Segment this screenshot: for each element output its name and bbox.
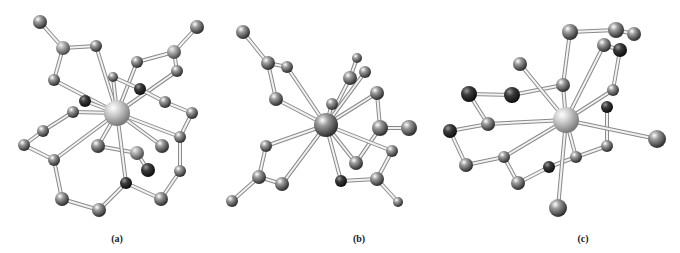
atom (252, 170, 266, 184)
atom (513, 57, 527, 71)
atom (349, 156, 363, 170)
atom (108, 72, 118, 82)
atom (269, 92, 283, 106)
atom (79, 95, 91, 107)
atom (67, 106, 79, 118)
metal-atom (104, 100, 130, 126)
bond-highlight (566, 120, 657, 139)
atom (511, 176, 525, 190)
atom (543, 161, 555, 173)
atom (401, 120, 417, 136)
atom (186, 107, 198, 119)
atom (167, 45, 181, 59)
atom (236, 25, 250, 39)
atom (120, 177, 132, 189)
atom (55, 192, 69, 206)
panel-label-b: (b) (353, 233, 365, 244)
atom (155, 139, 169, 153)
atom (504, 87, 520, 103)
atom (141, 163, 155, 177)
atom (326, 98, 338, 110)
atom (37, 125, 49, 137)
atom (459, 158, 473, 172)
atom (372, 120, 388, 136)
metal-atom (553, 107, 579, 133)
atom (627, 27, 641, 41)
atom (556, 78, 570, 92)
atom (171, 65, 183, 77)
atom (48, 154, 60, 166)
atom (275, 177, 289, 191)
atom (461, 86, 477, 102)
atom (607, 84, 619, 96)
atom (601, 101, 613, 113)
bond-highlight (563, 32, 570, 85)
atom (92, 203, 106, 217)
atom (174, 165, 186, 177)
atom (226, 195, 238, 207)
atom (443, 124, 457, 138)
atom (562, 24, 578, 40)
atom (56, 41, 70, 55)
atom (261, 56, 275, 70)
atom (18, 139, 30, 151)
panel-label-c: (c) (577, 233, 588, 244)
atom (335, 175, 347, 187)
molecular-structures-figure (0, 0, 680, 253)
metal-atom (314, 113, 338, 137)
atom (393, 197, 403, 207)
atom (597, 38, 611, 52)
atom (33, 15, 47, 29)
atom (130, 146, 144, 160)
atom (154, 192, 168, 206)
atom (648, 130, 666, 148)
atom (370, 172, 384, 186)
atom (481, 117, 495, 131)
atom (48, 74, 60, 86)
atom (608, 22, 624, 38)
atom (359, 66, 371, 78)
molecule-panel-b (226, 25, 417, 207)
atom (570, 151, 582, 163)
atom (134, 83, 146, 95)
atom (174, 131, 186, 143)
atom (549, 199, 567, 217)
panel-label-a: (a) (111, 233, 123, 244)
atom (281, 61, 293, 73)
molecule-panel-c (443, 22, 666, 217)
atom (131, 56, 143, 68)
atom (601, 140, 613, 152)
atom (386, 145, 398, 157)
atom (343, 71, 357, 85)
atom (90, 40, 102, 52)
molecule-panel-a (18, 15, 204, 217)
atom (352, 53, 362, 63)
atom (159, 96, 171, 108)
atom (613, 43, 627, 57)
atom (260, 140, 272, 152)
atom (91, 139, 105, 153)
atom (370, 86, 384, 100)
atom (498, 151, 510, 163)
atom (190, 20, 204, 34)
